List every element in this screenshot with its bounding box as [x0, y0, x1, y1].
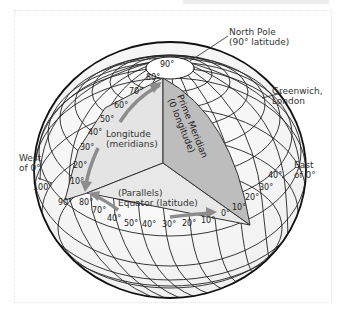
north-pole-label: North Pole (90° latitude): [229, 27, 289, 47]
svg-text:70°: 70°: [129, 87, 143, 96]
svg-text:40°: 40°: [107, 214, 121, 223]
svg-text:80°: 80°: [146, 73, 160, 82]
greenwich-subtitle: London: [272, 96, 323, 106]
svg-text:20°: 20°: [73, 161, 87, 170]
svg-text:40°: 40°: [268, 171, 282, 180]
svg-text:90°: 90°: [58, 198, 72, 207]
west-title: West: [19, 153, 41, 163]
greenwich-title: Greenwich,: [272, 86, 323, 96]
parallels-label: (Parallels): [118, 188, 163, 198]
greenwich-label: Greenwich, London: [272, 86, 323, 106]
svg-text:0°: 0°: [221, 209, 230, 218]
north-pole-title: North Pole: [229, 27, 289, 37]
longitude-label: Longitude (meridians): [106, 129, 158, 149]
svg-text:20°: 20°: [182, 219, 196, 228]
svg-text:10°: 10°: [201, 216, 215, 225]
svg-text:60°: 60°: [114, 101, 128, 110]
svg-text:10°: 10°: [70, 177, 84, 186]
svg-text:10°: 10°: [232, 203, 246, 212]
svg-text:30°: 30°: [259, 183, 273, 192]
north-pole-subtitle: (90° latitude): [229, 37, 289, 47]
svg-text:70°: 70°: [92, 206, 106, 215]
svg-text:30°: 30°: [80, 143, 94, 152]
svg-text:30°: 30°: [162, 220, 176, 229]
west-label: West of 0°: [19, 153, 41, 173]
east-subtitle: of 0°: [294, 170, 316, 180]
west-subtitle: of 0°: [19, 163, 41, 173]
east-label: East of 0°: [294, 160, 316, 180]
svg-text:90°: 90°: [160, 60, 174, 69]
longitude-subtitle: (meridians): [106, 139, 158, 149]
east-title: East: [294, 160, 316, 170]
equator-label: Equator (latitude): [118, 198, 198, 208]
svg-text:40°: 40°: [142, 220, 156, 229]
svg-text:100°: 100°: [33, 183, 52, 192]
svg-text:20°: 20°: [245, 193, 259, 202]
longitude-title: Longitude: [106, 129, 158, 139]
svg-text:40°: 40°: [88, 128, 102, 137]
svg-text:50°: 50°: [124, 219, 138, 228]
svg-text:50°: 50°: [100, 115, 114, 124]
